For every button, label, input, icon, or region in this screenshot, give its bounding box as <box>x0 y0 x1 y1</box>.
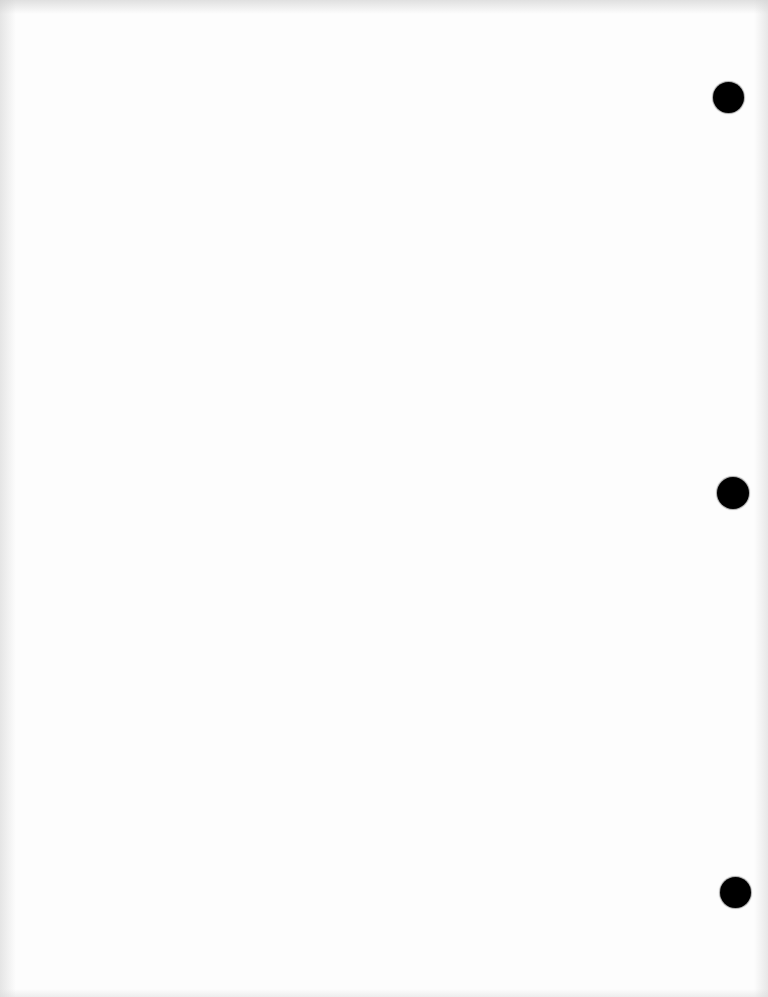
scan-shadow-bottom <box>0 989 768 997</box>
punch-hole-bottom <box>720 877 751 908</box>
scan-shadow-right <box>754 0 768 997</box>
scan-shadow-left <box>0 0 16 997</box>
scan-shadow-top <box>0 0 768 14</box>
punch-hole-middle <box>717 477 749 509</box>
punch-hole-top <box>713 82 744 113</box>
scanned-page <box>0 0 768 997</box>
